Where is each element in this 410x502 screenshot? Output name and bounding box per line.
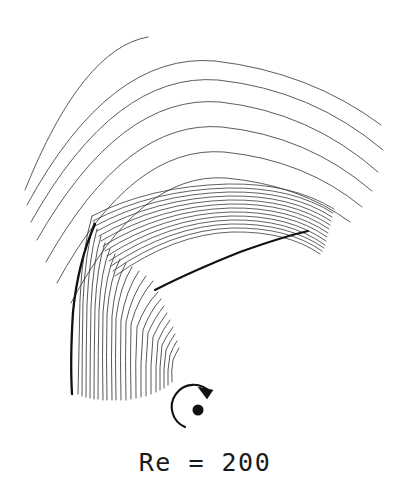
cylinder-axis-dot (193, 405, 204, 416)
figure-root: Re = 200 (0, 0, 410, 502)
streamline-plot (0, 0, 410, 502)
plot-background (0, 0, 410, 502)
